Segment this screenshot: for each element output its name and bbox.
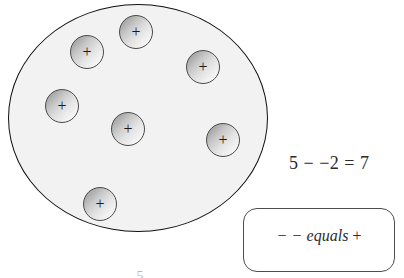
plus-symbol: +	[352, 227, 362, 244]
plus-counter: +	[111, 112, 145, 146]
plus-icon: +	[198, 59, 207, 75]
plus-counter: +	[206, 123, 240, 157]
oval-counter-group: + + + + + + +	[8, 4, 268, 232]
equation-text: 5 − −2 = 7	[289, 153, 369, 174]
plus-counter: +	[70, 35, 104, 69]
plus-icon: +	[123, 121, 132, 137]
plus-icon: +	[218, 132, 227, 148]
clipped-bottom-caption: 5	[110, 270, 170, 278]
plus-icon: +	[57, 98, 66, 114]
plus-icon: +	[131, 24, 140, 40]
plus-icon: +	[95, 196, 104, 212]
plus-counter: +	[83, 187, 117, 221]
double-minus-symbol: − −	[278, 227, 303, 244]
plus-counter: +	[119, 15, 153, 49]
plus-counter: +	[186, 50, 220, 84]
legend-statement: − −equals+	[244, 227, 396, 245]
equals-word: equals	[303, 227, 353, 244]
legend-box: − −equals+	[243, 208, 395, 272]
figure-canvas: + + + + + + + 5 − −2 = 7 − −equals+ 5	[0, 0, 404, 278]
plus-counter: +	[45, 89, 79, 123]
plus-icon: +	[82, 44, 91, 60]
